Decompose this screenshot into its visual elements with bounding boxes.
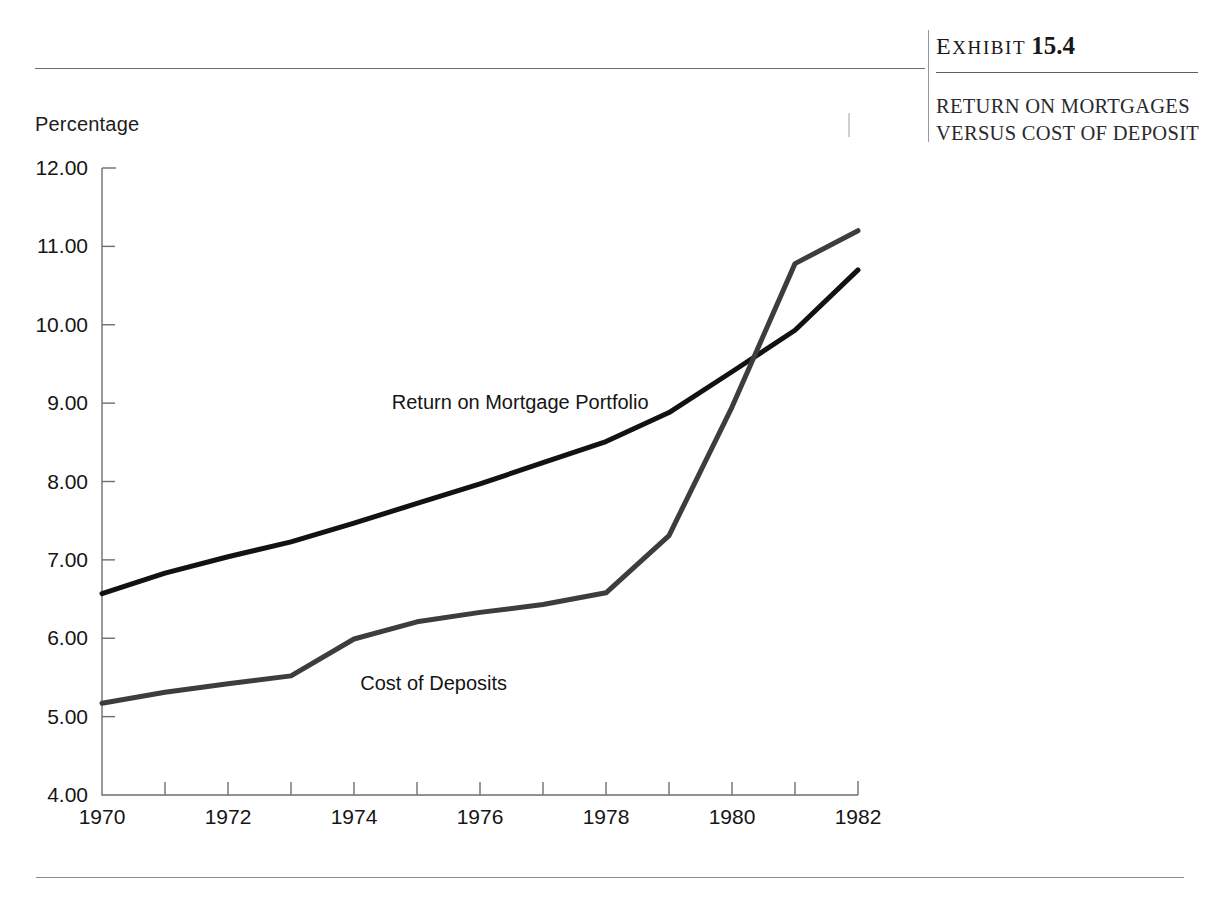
series-labels: Return on Mortgage PortfolioCost of Depo… (360, 391, 648, 694)
x-tick-label: 1980 (709, 805, 756, 828)
y-tick-label: 4.00 (47, 783, 88, 806)
y-tick-label: 9.00 (47, 391, 88, 414)
x-tick-label: 1982 (835, 805, 882, 828)
series-paths (102, 231, 858, 704)
x-tick-labels: 1970197219741976197819801982 (79, 805, 882, 828)
y-tick-label: 6.00 (47, 626, 88, 649)
series-line (102, 270, 858, 594)
plot-svg: 4.005.006.007.008.009.0010.0011.0012.00 … (0, 0, 1206, 900)
y-tick-label: 12.00 (35, 156, 88, 179)
x-tick-label: 1972 (205, 805, 252, 828)
series-line (102, 231, 858, 704)
x-tick-label: 1978 (583, 805, 630, 828)
x-tick-label: 1976 (457, 805, 504, 828)
y-tick-label: 11.00 (37, 234, 88, 257)
y-tick-label: 5.00 (47, 705, 88, 728)
y-tick-label: 8.00 (47, 470, 88, 493)
tick-marks (102, 246, 795, 795)
series-inline-label: Cost of Deposits (360, 672, 507, 694)
y-tick-labels: 4.005.006.007.008.009.0010.0011.0012.00 (35, 156, 88, 806)
series-inline-label: Return on Mortgage Portfolio (392, 391, 649, 413)
y-tick-label: 7.00 (47, 548, 88, 571)
y-tick-label: 10.00 (35, 313, 88, 336)
x-tick-label: 1974 (331, 805, 378, 828)
x-tick-label: 1970 (79, 805, 126, 828)
chart-figure: Percentage 4.005.006.007.008.009.0010.00… (0, 0, 1206, 900)
